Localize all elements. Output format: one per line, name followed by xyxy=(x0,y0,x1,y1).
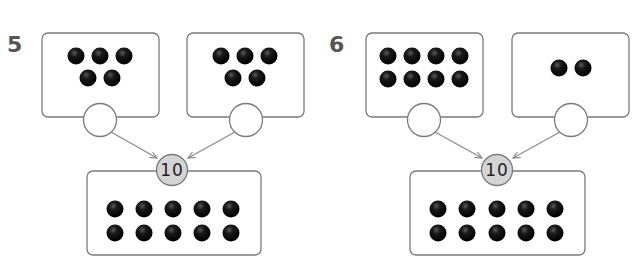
problem-6: 6 xyxy=(329,32,629,255)
counter-dot-icon xyxy=(547,201,564,218)
counter-dot-icon xyxy=(194,225,211,242)
part-answer-circle-a[interactable] xyxy=(84,104,117,137)
problem-number: 5 xyxy=(7,32,22,57)
counter-dot-icon xyxy=(459,201,476,218)
counter-dot-icon xyxy=(237,48,254,65)
counter-dot-icon xyxy=(575,60,592,77)
counter-dot-icon xyxy=(107,225,124,242)
counter-dot-icon xyxy=(452,71,469,88)
part-answer-circle-b[interactable] xyxy=(555,104,588,137)
counter-dot-icon xyxy=(223,225,240,242)
counter-dot-icon xyxy=(223,201,240,218)
counter-dot-icon xyxy=(459,225,476,242)
counter-dot-icon xyxy=(136,201,153,218)
counter-dot-icon xyxy=(380,48,397,65)
problem-5: 5 xyxy=(7,32,304,255)
counter-dot-icon xyxy=(404,48,421,65)
counter-dot-icon xyxy=(249,70,266,87)
whole-value: 10 xyxy=(160,160,184,180)
arrow-left-icon xyxy=(188,132,235,158)
counter-dot-icon xyxy=(428,71,445,88)
counter-dot-icon xyxy=(104,70,121,87)
counter-dot-icon xyxy=(92,48,109,65)
part-whole-worksheet: 5 xyxy=(0,0,640,272)
counter-dot-icon xyxy=(136,225,153,242)
counter-dot-icon xyxy=(428,48,445,65)
arrow-left-icon xyxy=(513,132,560,158)
counter-dot-icon xyxy=(518,225,535,242)
counter-dot-icon xyxy=(116,48,133,65)
counter-dot-icon xyxy=(404,71,421,88)
whole-value: 10 xyxy=(485,160,509,180)
counter-dot-icon xyxy=(261,48,278,65)
counter-dot-icon xyxy=(225,70,242,87)
counter-dot-icon xyxy=(489,201,506,218)
counter-dot-icon xyxy=(452,48,469,65)
problem-number: 6 xyxy=(329,32,344,57)
counter-dot-icon xyxy=(430,225,447,242)
arrow-right-icon xyxy=(111,132,157,158)
counter-dot-icon xyxy=(547,225,564,242)
counter-dot-icon xyxy=(107,201,124,218)
counter-dot-icon xyxy=(551,60,568,77)
part-answer-circle-a[interactable] xyxy=(408,104,441,137)
counter-dot-icon xyxy=(213,48,230,65)
counter-dot-icon xyxy=(80,70,97,87)
counter-dot-icon xyxy=(518,201,535,218)
counter-dot-icon xyxy=(489,225,506,242)
arrow-right-icon xyxy=(435,132,482,158)
part-answer-circle-b[interactable] xyxy=(230,104,263,137)
counter-dot-icon xyxy=(194,201,211,218)
counter-dot-icon xyxy=(165,201,182,218)
counter-dot-icon xyxy=(430,201,447,218)
counter-dot-icon xyxy=(380,71,397,88)
counter-dot-icon xyxy=(165,225,182,242)
counter-dot-icon xyxy=(68,48,85,65)
